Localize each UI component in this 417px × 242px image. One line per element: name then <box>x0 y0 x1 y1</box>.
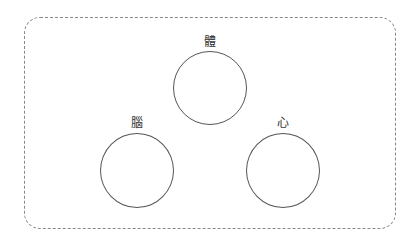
label-brain: 腦 <box>117 116 157 130</box>
circle-body <box>173 51 247 125</box>
label-body: 體 <box>190 35 230 49</box>
circle-heart <box>246 133 320 208</box>
circle-brain <box>100 133 174 208</box>
label-heart: 心 <box>263 116 303 130</box>
